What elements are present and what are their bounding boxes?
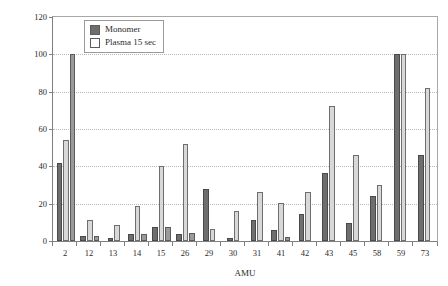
bar-group [173,17,197,241]
bar [114,225,120,241]
x-axis-tick-label: 15 [149,248,173,258]
bar [87,220,93,241]
x-axis-tick: 41 [269,242,293,264]
y-axis-title: Relative Intensity, % [0,0,14,286]
bar [159,166,165,241]
x-axis-title: AMU [52,268,438,278]
bar [299,214,305,241]
x-axis-tickmark [316,242,317,246]
x-axis-tick-label: 26 [173,248,197,258]
bar [370,196,376,241]
bar [271,230,277,241]
x-axis-tick: 2 [53,242,77,264]
bar-group [221,17,245,241]
x-axis-tickmark [292,242,293,246]
bar [425,88,431,241]
bar [152,227,158,241]
x-axis-tick: 12 [77,242,101,264]
x-axis-tickmark [148,242,149,246]
bar [346,223,352,241]
bar [234,211,240,241]
bar [394,54,400,241]
x-axis-tickmark [412,242,413,246]
x-axis-tick-labels: 2121314152629303141424345585973 [52,242,438,264]
bar [165,227,171,241]
legend-item-monomer: Monomer [90,24,156,35]
x-axis-tick-label: 31 [245,248,269,258]
bar [80,236,86,241]
bar [305,192,311,241]
x-axis-tickmark [196,242,197,246]
bar [257,192,263,241]
x-axis-tick-label: 42 [293,248,317,258]
x-axis-tick: 15 [149,242,173,264]
x-axis-tick-label: 58 [365,248,389,258]
x-axis-tick: 43 [317,242,341,264]
bar [141,234,147,241]
x-axis-tickmark [340,242,341,246]
bar-group [245,17,269,241]
x-axis-tick-label: 73 [413,248,437,258]
x-axis-tick-label: 45 [341,248,365,258]
x-axis-tick: 73 [413,242,437,264]
legend-swatch-plasma-icon [90,38,100,48]
x-axis-tickmark [268,242,269,246]
legend-item-plasma: Plasma 15 sec [90,37,156,48]
bar [203,189,209,241]
legend-label-monomer: Monomer [105,24,141,35]
bar [128,234,134,241]
bar-group [364,17,388,241]
bar [251,220,257,241]
x-axis-tickmark [220,242,221,246]
x-axis-tickmark [100,242,101,246]
bar [183,144,189,241]
bar [135,206,141,241]
x-axis-tickmark [76,242,77,246]
x-axis-tick: 26 [173,242,197,264]
x-axis-tick: 59 [389,242,413,264]
x-axis-tickmark [364,242,365,246]
x-axis-tick: 14 [125,242,149,264]
bar [329,106,335,241]
x-axis-tick: 58 [365,242,389,264]
bar-group [269,17,293,241]
bar-chart-figure: Relative Intensity, % 020406080100120 Mo… [0,0,448,286]
x-axis-last-tickmark [437,242,438,246]
x-axis-tickmark [52,242,53,246]
x-axis-tickmark [388,242,389,246]
legend-swatch-monomer-icon [90,25,100,35]
bar-group [412,17,436,241]
x-axis-tickmark [172,242,173,246]
x-axis-tick-label: 30 [221,248,245,258]
chart-legend: Monomer Plasma 15 sec [84,20,164,53]
bar [57,163,63,241]
x-axis-tick: 13 [101,242,125,264]
x-axis-tickmark [244,242,245,246]
bar [94,236,100,241]
x-axis-tick: 29 [197,242,221,264]
bar [189,233,195,241]
x-axis-tick-label: 14 [125,248,149,258]
x-axis-tickmark [124,242,125,246]
x-axis-tick-label: 2 [53,248,77,258]
bar [353,155,359,241]
bar-group [54,17,78,241]
bar-group [341,17,365,241]
bar [322,173,328,241]
x-axis-tick-label: 41 [269,248,293,258]
bar [377,185,383,241]
legend-label-plasma: Plasma 15 sec [105,37,156,48]
x-axis-tick-label: 29 [197,248,221,258]
bar [70,54,76,241]
x-axis-tick: 45 [341,242,365,264]
bar [285,237,291,241]
bar-group [388,17,412,241]
bar [227,238,233,241]
x-axis-tick-label: 12 [77,248,101,258]
bar [210,229,216,241]
bar [176,234,182,241]
bar-group [293,17,317,241]
bar [401,54,407,241]
bar [108,238,114,241]
bar [278,203,284,241]
